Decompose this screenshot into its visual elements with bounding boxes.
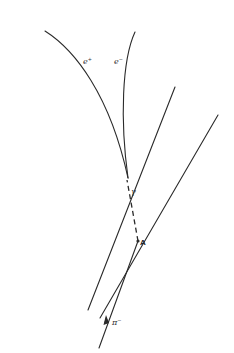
pi-minus-label: π− [111, 317, 121, 327]
vertex-a-label: A [140, 238, 146, 247]
gamma-label: γ [131, 187, 136, 196]
straight-track-1 [88, 87, 175, 310]
straight-track-2 [100, 115, 218, 318]
pi-minus-track [99, 241, 138, 348]
e-minus-track [123, 32, 135, 178]
e-plus-track [45, 31, 128, 178]
e-plus-label: e+ [83, 56, 92, 66]
track-diagram: e+ e− γ A π− [0, 0, 234, 353]
e-minus-label: e− [114, 56, 123, 66]
